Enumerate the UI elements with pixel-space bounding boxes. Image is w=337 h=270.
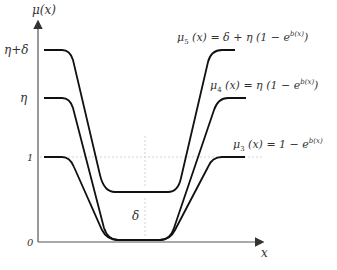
membership-function-diagram: μ(x) x η+δ η 1 0 δ μ5 (x) = δ + η (1 − e… [0,0,337,270]
delta-gap-label: δ [132,209,139,223]
y-axis-label: μ(x) [32,3,56,17]
curve-mu3 [44,157,245,240]
x-axis-label: x [261,246,268,260]
equation-mu5: μ5 (x) = δ + η (1 − eb(x)) [177,30,308,46]
equation-mu3: μ3 (x) = 1 − eb(x) [233,137,323,153]
y-tick-eta: η [20,91,28,105]
y-tick-eta-delta: η+δ [4,43,28,57]
y-tick-zero: 0 [27,237,34,248]
equation-mu4: μ4 (x) = η (1 − eb(x)) [210,78,318,94]
y-tick-one: 1 [27,152,33,163]
